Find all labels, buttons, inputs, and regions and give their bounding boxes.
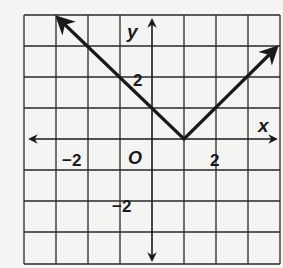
y-tick-neg2: −2 — [112, 197, 131, 216]
x-axis-label: x — [257, 115, 270, 136]
x-tick-2: 2 — [210, 151, 219, 170]
x-tick-neg2: −2 — [62, 151, 81, 170]
y-tick-2: 2 — [133, 71, 142, 90]
absolute-value-graph — [58, 18, 276, 139]
y-axis-label: y — [126, 21, 139, 42]
coordinate-plane: y x O −2 2 2 −2 — [0, 0, 283, 268]
origin-label: O — [128, 148, 142, 168]
